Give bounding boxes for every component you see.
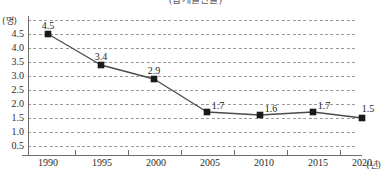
data-point-label: 1.6 <box>258 104 284 114</box>
data-point-marker <box>98 62 105 69</box>
data-point-label: 1.7 <box>205 101 231 111</box>
data-point-label: 3.4 <box>88 52 114 62</box>
data-point-marker <box>45 31 52 38</box>
data-point-label: 1.7 <box>311 101 337 111</box>
fertility-rate-line-chart: (합계출산율) (명) (년) 4.5 4.0 3.5 3.0 2.5 2.0 … <box>0 0 391 179</box>
data-point-label: 2.9 <box>141 66 167 76</box>
gridlines <box>28 20 356 146</box>
x-axis-ticks <box>76 150 341 155</box>
data-point-label: 4.5 <box>35 21 61 31</box>
data-point-marker <box>359 115 366 122</box>
data-point-label: 1.5 <box>355 104 381 114</box>
data-point-marker <box>151 76 158 83</box>
